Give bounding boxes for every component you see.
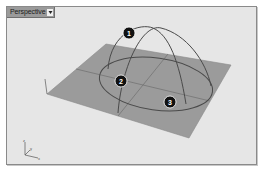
y-axis-label: y [30,146,32,151]
callout-badge-2: 2 [115,75,127,87]
callout-number: 3 [168,99,172,106]
z-axis-label: z [23,138,25,143]
perspective-viewport[interactable]: 1 2 3 z y x Perspective [6,6,257,165]
callout-number: 1 [127,30,131,37]
construction-plane [47,44,231,138]
dropdown-arrow-icon[interactable] [47,9,53,16]
viewport-title: Perspective [10,7,45,17]
viewport-title-tab[interactable]: Perspective [7,7,55,18]
callout-number: 2 [119,78,123,85]
3d-scene[interactable]: 1 2 3 z y x [7,7,256,164]
callout-badge-1: 1 [123,27,135,39]
corner-stub [45,79,47,94]
axis-gizmo: z y x [23,138,40,161]
callout-badge-3: 3 [164,96,176,108]
x-axis-label: x [38,156,40,161]
